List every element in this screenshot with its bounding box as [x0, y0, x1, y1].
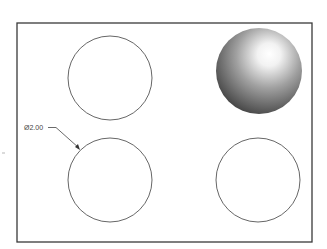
drawing-sheet: Ø2.00 — [0, 0, 327, 249]
drawing-canvas: Ø2.00 — [0, 0, 327, 249]
diameter-label: Ø2.00 — [24, 124, 43, 131]
shaded-sphere-view — [216, 28, 302, 114]
